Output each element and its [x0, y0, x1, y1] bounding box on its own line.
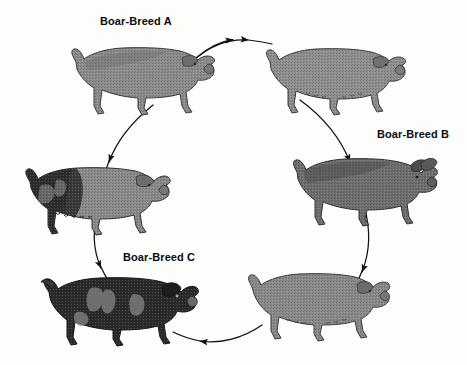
diagram-canvas: Boar-Breed A Boar-Breed B Boar-Breed C [0, 0, 467, 365]
pig-body [293, 158, 437, 226]
label-boar-breed-b: Boar-Breed B [377, 129, 449, 140]
pig-eye [194, 63, 197, 66]
label-boar-breed-a: Boar-Breed A [100, 16, 172, 27]
pig-body [41, 278, 198, 346]
pig-eye [416, 176, 419, 179]
pig-right-middle-boar-b [283, 147, 441, 231]
pig-bottom-left-boar-c [33, 264, 203, 350]
pig-top-left [62, 36, 222, 120]
pig-body [16, 156, 170, 240]
pig-body [266, 49, 405, 115]
pig-bottom-right [240, 263, 394, 345]
label-boar-breed-c: Boar-Breed C [123, 252, 195, 263]
pig-body [72, 48, 215, 115]
pig-eye [385, 64, 388, 67]
pig-eye [176, 295, 179, 298]
pig-eye [369, 290, 372, 293]
pig-eye [148, 184, 151, 187]
pig-top-right [258, 38, 410, 120]
pig-body [248, 274, 389, 341]
pig-left-middle [16, 156, 178, 240]
